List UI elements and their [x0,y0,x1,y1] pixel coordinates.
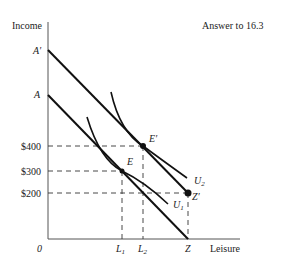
tick-Z: Z [185,243,191,254]
tick-L1: L1 [115,243,125,256]
tick-300: $300 [21,166,41,177]
label-A: A [33,89,41,100]
tick-L2: L2 [137,243,148,256]
point-E-prime [140,143,146,149]
point-E [120,169,125,174]
chart-title: Answer to 16.3 [202,20,263,31]
label-E-prime: E′ [148,133,158,144]
x-axis-label: Leisure [210,243,241,254]
tick-400: $400 [21,141,41,152]
income-leisure-diagram: Answer to 16.3 Income Leisure 0 A′ A $40… [0,0,287,264]
label-A-prime: A′ [32,45,42,56]
label-E: E [126,156,133,167]
tick-200: $200 [21,188,41,199]
point-Z-prime [185,190,192,197]
origin-label: 0 [37,243,42,254]
budget-line-A-Z [48,95,188,239]
budget-line-A-prime-Z-prime [48,50,188,193]
label-Z-prime: Z′ [192,191,201,202]
dashed-guides [48,146,188,239]
label-U1: U1 [173,199,184,212]
y-axis-label: Income [12,20,43,31]
label-U2: U2 [194,175,205,188]
